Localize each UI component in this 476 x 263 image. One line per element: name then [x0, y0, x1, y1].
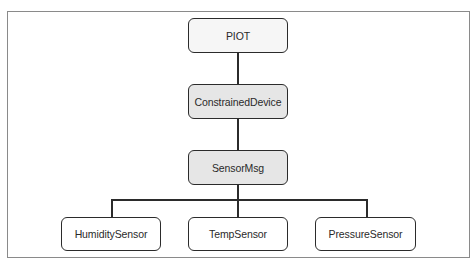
- connector-piot-constrained-device: [237, 53, 239, 84]
- node-pressure-sensor: PressureSensor: [315, 217, 416, 251]
- node-piot: PIOT: [188, 18, 288, 53]
- node-sensor-msg: SensorMsg: [188, 150, 288, 185]
- connector-sensor-msg-trunk: [237, 185, 239, 217]
- node-constrained-device-label: ConstrainedDevice: [194, 96, 281, 108]
- connector-constrained-device-sensor-msg: [237, 119, 239, 150]
- connector-drop-humidity-sensor: [111, 199, 113, 217]
- node-piot-label: PIOT: [226, 30, 250, 42]
- node-temp-sensor-label: TempSensor: [209, 228, 267, 240]
- connector-horizontal-bus: [111, 199, 367, 201]
- node-pressure-sensor-label: PressureSensor: [329, 228, 403, 240]
- node-humidity-sensor: HumiditySensor: [61, 217, 161, 251]
- node-sensor-msg-label: SensorMsg: [212, 162, 264, 174]
- node-humidity-sensor-label: HumiditySensor: [75, 228, 148, 240]
- node-temp-sensor: TempSensor: [188, 217, 288, 251]
- connector-drop-pressure-sensor: [366, 199, 368, 217]
- node-constrained-device: ConstrainedDevice: [188, 84, 288, 119]
